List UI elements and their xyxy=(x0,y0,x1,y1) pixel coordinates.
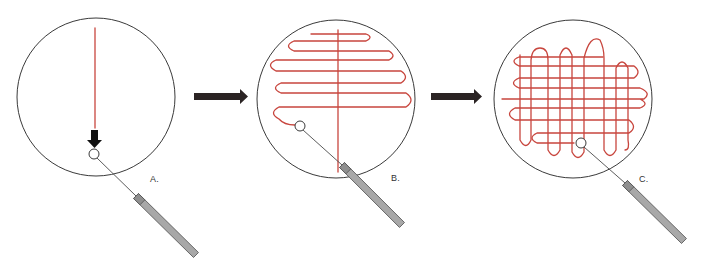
loop-handle-c xyxy=(623,181,687,244)
loop-handle-a xyxy=(134,194,199,258)
loop-wire-c xyxy=(584,147,625,183)
down-arrow-icon xyxy=(87,130,102,148)
step-arrow-b-to-c-icon xyxy=(431,89,482,104)
inoculating-loop-c xyxy=(576,138,586,148)
step-arrow-a-to-b-icon xyxy=(194,89,248,104)
panel-b xyxy=(257,20,415,227)
inoculating-loop-a xyxy=(89,149,99,159)
streak-horizontal-c xyxy=(502,57,647,143)
panel-label-c: C. xyxy=(639,174,648,184)
loop-wire-a xyxy=(97,158,136,196)
petri-dish-b xyxy=(257,20,415,178)
handle-body xyxy=(134,194,199,258)
panel-label-b: B. xyxy=(391,173,400,183)
loop-wire-b xyxy=(303,130,342,165)
panel-label-a: A. xyxy=(150,174,159,184)
panel-a xyxy=(17,18,198,257)
inoculating-loop-b xyxy=(295,121,305,131)
streak-serpentine-b xyxy=(271,34,412,125)
panel-c xyxy=(494,20,686,243)
streak-plate-diagram xyxy=(0,0,701,265)
handle-body xyxy=(623,181,687,244)
